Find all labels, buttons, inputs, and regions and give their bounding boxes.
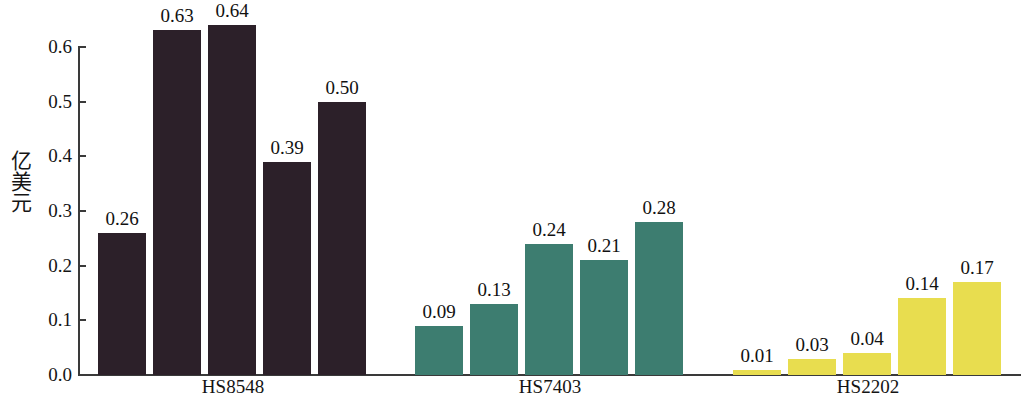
bar-value-label-HS2202-3: 0.04 [833,329,901,348]
bar-value-label-HS7403-4: 0.21 [570,236,638,255]
bar-HS8548-2[interactable] [153,30,201,375]
bar-HS2202-2[interactable] [788,359,836,375]
bar-HS7403-5[interactable] [635,222,683,375]
bar-value-label-HS2202-5: 0.17 [943,258,1011,277]
x-axis-group-label-HS7403: HS7403 [480,377,620,397]
bar-value-label-HS8548-1: 0.26 [88,209,156,228]
bar-chart: 亿美元 0.0 0.1 0.2 0.3 0.4 0.5 0.6 0.260.63… [0,0,1021,398]
bar-HS8548-3[interactable] [208,25,256,375]
bar-HS2202-5[interactable] [953,282,1001,375]
bar-HS7403-1[interactable] [415,326,463,375]
bar-value-label-HS8548-4: 0.39 [253,138,321,157]
bar-HS2202-3[interactable] [843,353,891,375]
bar-value-label-HS8548-5: 0.50 [308,78,376,97]
bar-value-label-HS7403-1: 0.09 [405,302,473,321]
bar-HS2202-1[interactable] [733,370,781,375]
bar-HS8548-1[interactable] [98,233,146,375]
x-axis-group-label-HS8548: HS8548 [163,377,303,397]
x-axis-group-label-HS2202: HS2202 [798,377,938,397]
bar-HS7403-4[interactable] [580,260,628,375]
bar-value-label-HS8548-3: 0.64 [198,1,266,20]
bar-HS7403-3[interactable] [525,244,573,375]
bar-HS7403-2[interactable] [470,304,518,375]
bar-value-label-HS7403-5: 0.28 [625,198,693,217]
bar-value-label-HS7403-2: 0.13 [460,280,528,299]
plot-area: 0.260.630.640.390.50HS85480.090.130.240.… [0,0,1021,398]
bar-HS8548-4[interactable] [263,162,311,375]
bar-HS2202-4[interactable] [898,298,946,375]
bar-value-label-HS2202-4: 0.14 [888,274,956,293]
bar-HS8548-5[interactable] [318,102,366,376]
